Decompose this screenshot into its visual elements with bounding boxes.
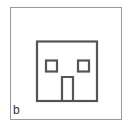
left-window [46, 61, 57, 72]
door [62, 77, 73, 101]
right-window [78, 61, 89, 72]
panel-label: b [13, 104, 20, 116]
